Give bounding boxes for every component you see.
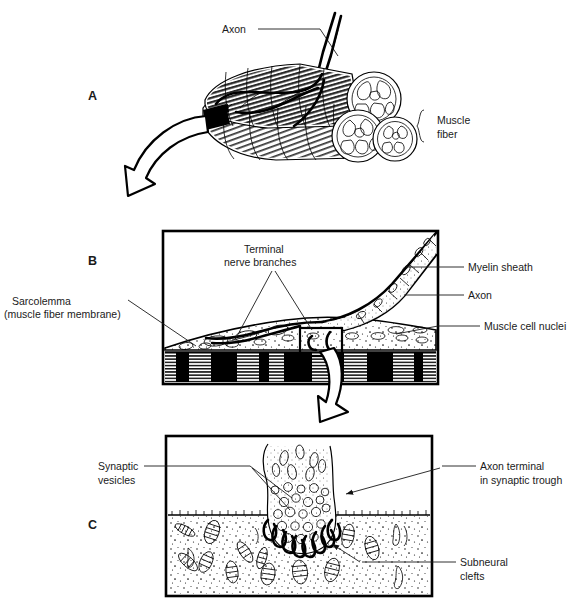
label-axon-terminal-line1: Axon terminal xyxy=(480,460,544,472)
label-axon-b: Axon xyxy=(468,289,492,301)
panel-b-group: B xyxy=(4,231,566,422)
muscle-fiber-bundle xyxy=(196,64,417,162)
label-muscle-fiber-line2: fiber xyxy=(437,128,458,140)
label-axon-terminal-line2: in synaptic trough xyxy=(480,474,562,486)
panel-letter-b: B xyxy=(88,254,97,268)
label-terminal-branches-line1: Terminal xyxy=(244,243,284,255)
muscle-fiber-brace-group: Muscle fiber xyxy=(417,110,470,142)
label-muscle-cell-nuclei: Muscle cell nuclei xyxy=(484,320,566,332)
figure-canvas: A Axon xyxy=(0,0,578,601)
label-sarcolemma-line1: Sarcolemma xyxy=(12,295,71,307)
label-sarcolemma-line2: (muscle fiber membrane) xyxy=(4,308,121,320)
label-terminal-branches-line2: nerve branches xyxy=(224,256,296,268)
label-synaptic-vesicles-line2: vesicles xyxy=(98,474,135,486)
axon-terminal-c xyxy=(263,444,340,557)
neuromuscular-junction-figure: A Axon xyxy=(0,0,578,601)
fiber-cross-section-3 xyxy=(373,117,417,161)
panel-letter-a: A xyxy=(88,89,97,103)
label-muscle-fiber-line1: Muscle xyxy=(437,114,470,126)
panel-c-group: C xyxy=(88,436,562,596)
arrow-a-to-b xyxy=(125,116,208,196)
label-axon-a: Axon xyxy=(222,23,246,35)
label-synaptic-vesicles-line1: Synaptic xyxy=(98,460,138,472)
label-subneural-clefts-line2: clefts xyxy=(460,570,485,582)
label-myelin-sheath: Myelin sheath xyxy=(468,261,533,273)
panel-letter-c: C xyxy=(88,518,97,532)
panel-a-group: A Axon xyxy=(88,13,470,196)
muscle-fiber-brace xyxy=(417,110,424,142)
label-subneural-clefts-line1: Subneural xyxy=(460,556,508,568)
